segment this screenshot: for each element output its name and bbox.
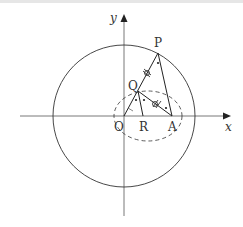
point-label-A: A — [167, 120, 177, 134]
angle-tick-O — [128, 108, 133, 111]
y-axis-arrow-icon — [121, 14, 128, 22]
point-label-O: O — [114, 120, 124, 134]
point-label-Q: Q — [128, 79, 138, 93]
point-label-R: R — [139, 120, 149, 134]
x-axis-label: x — [225, 120, 232, 134]
x-axis-arrow-icon — [223, 113, 231, 120]
segment-PA — [158, 53, 172, 116]
diagram-canvas: y x P Q O R A — [0, 0, 243, 227]
segment-QR — [138, 91, 143, 116]
y-axis-label: y — [109, 11, 117, 25]
point-label-P: P — [154, 36, 162, 50]
